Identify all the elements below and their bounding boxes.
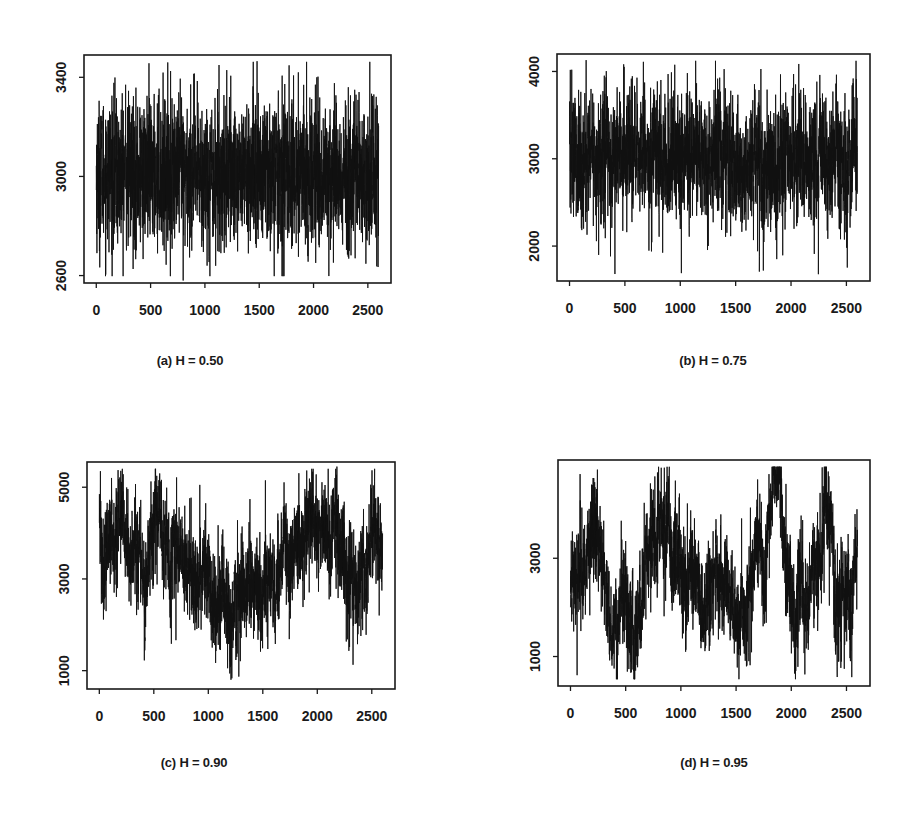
y-tick-label: 3000: [527, 542, 543, 573]
y-tick-label: 1000: [527, 641, 543, 672]
series-line-d: [570, 467, 857, 679]
x-axis-d: 05001000150020002500: [567, 686, 863, 721]
x-tick-label: 1000: [665, 705, 696, 721]
x-tick-label: 500: [614, 705, 638, 721]
y-axis-d: 10003000: [527, 542, 558, 672]
caption-d: (d) H = 0.95: [680, 755, 747, 770]
x-tick-label: 0: [567, 705, 575, 721]
x-tick-label: 2000: [776, 705, 807, 721]
x-tick-label: 1500: [721, 705, 752, 721]
x-tick-label: 2500: [831, 705, 862, 721]
chart-d-plot: 0500100015002000250010003000: [0, 0, 907, 824]
